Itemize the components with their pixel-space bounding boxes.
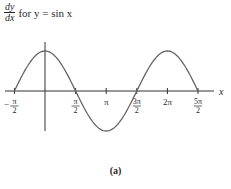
plot-area: −π2π2π3π22π5π2 x	[0, 0, 231, 189]
svg-text:2: 2	[196, 106, 200, 115]
svg-text:2: 2	[12, 106, 16, 115]
x-tick-label: π	[104, 97, 109, 107]
x-tick-labels: −π2π2π3π22π5π2	[4, 97, 202, 115]
svg-text:π: π	[12, 97, 16, 106]
x-axis-label: x	[218, 86, 224, 97]
svg-text:5π: 5π	[194, 97, 202, 106]
svg-text:−: −	[4, 99, 9, 109]
x-tick-label: −π2	[4, 97, 19, 115]
x-tick-label: π2	[72, 97, 80, 115]
svg-text:2: 2	[135, 106, 139, 115]
figure-caption: (a)	[0, 165, 231, 176]
x-tick-label: 2π	[163, 97, 173, 107]
x-tick-label: 5π2	[194, 97, 202, 115]
svg-text:2π: 2π	[163, 97, 173, 107]
svg-text:π: π	[74, 97, 78, 106]
svg-text:π: π	[104, 97, 109, 107]
svg-text:2: 2	[74, 106, 78, 115]
svg-text:3π: 3π	[133, 97, 141, 106]
x-tick-label: 3π2	[133, 97, 141, 115]
